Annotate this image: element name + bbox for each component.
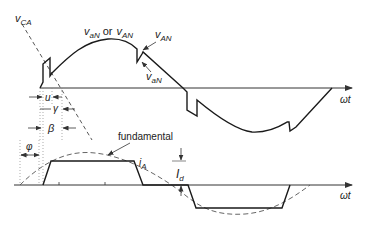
Id-label: Id [176, 167, 184, 183]
van-or-vAN-label: vaNorvAN [84, 25, 133, 40]
omega-t-label-top: ωt [340, 94, 352, 105]
commutation-waveform-diagram: ωt ωt vCA vaNorvAN vAN vaN u γ β φ funda… [0, 0, 368, 230]
vca-dashed-line [22, 24, 92, 140]
phi-label: φ [26, 141, 33, 152]
beta-label: β [47, 122, 55, 134]
omega-t-label-bottom: ωt [340, 190, 352, 201]
gamma-label: γ [53, 103, 59, 114]
vAN-pointer-arrow [143, 42, 156, 50]
vca-label: vCA [15, 12, 32, 27]
fundamental-current-dashed [20, 152, 310, 214]
fundamental-label: fundamental [118, 131, 173, 142]
u-label: u [45, 92, 51, 103]
vAN-right-label: vAN [155, 28, 172, 43]
voltage-waveform [40, 39, 332, 132]
iA-label: iA [139, 157, 147, 171]
fundamental-pointer-arrow [108, 143, 130, 155]
vaN-right-label: vaN [146, 70, 162, 85]
